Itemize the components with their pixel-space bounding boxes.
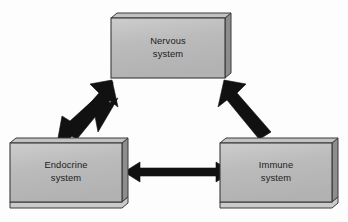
node-endocrine-label-line2: system (51, 172, 81, 183)
node-nervous-label-line1: Nervous (150, 35, 186, 46)
diagram-canvas: Nervous system Endocrine system (0, 0, 348, 222)
node-immune-label-line1: Immune (259, 159, 293, 170)
diagram-svg: Nervous system Endocrine system (0, 0, 348, 222)
node-immune-label-line2: system (261, 172, 291, 183)
node-nervous-system[interactable]: Nervous system (111, 13, 231, 78)
node-endocrine-system[interactable]: Endocrine system (10, 138, 128, 208)
node-nervous-label-line2: system (153, 48, 183, 59)
edge-endocrine-immune (124, 162, 232, 182)
edge-nervous-endocrine (58, 80, 118, 146)
node-endocrine-label-line1: Endocrine (44, 159, 87, 170)
node-immune-system[interactable]: Immune system (220, 138, 338, 208)
edge-nervous-immune (218, 80, 271, 139)
